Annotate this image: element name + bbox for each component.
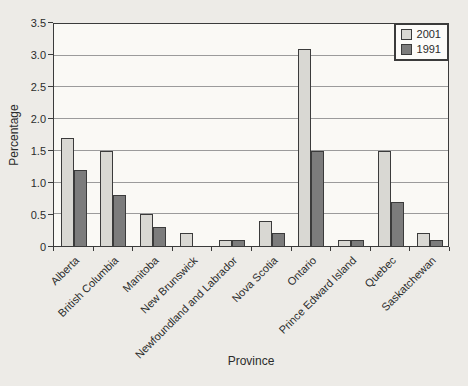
x-tick-label-prince-edward-island: Prince Edward Island [276,254,358,336]
legend-label: 2001 [417,28,441,41]
x-axis-tick [449,247,450,251]
bar-1991-nova-scotia [272,233,285,246]
bar-1991-newfoundland-and-labrador [232,240,245,246]
y-axis-tick [48,118,53,119]
bar-2001-manitoba [140,214,153,246]
y-axis-tick [48,22,53,23]
bar-2001-saskatchewan [417,233,430,246]
y-tick-label: 2.0 [24,113,46,125]
legend-swatch-2001 [401,29,412,40]
x-axis-labels: AlbertaBritish ColumbiaManitobaNew Bruns… [53,250,449,365]
legend-item-1991: 1991 [401,43,441,56]
bar-2001-new-brunswick [180,233,193,246]
bar-2001-british-columbia [100,151,113,246]
y-axis-tick [48,150,53,151]
legend-item-2001: 2001 [401,28,441,41]
y-axis-tick [48,214,53,215]
bar-2001-quebec [378,151,391,246]
bar-1991-british-columbia [113,195,126,246]
bar-2001-alberta [61,138,74,246]
x-tick-label-ontario: Ontario [285,254,319,288]
y-tick-label: 2.5 [24,81,46,93]
x-tick-label-alberta: Alberta [48,254,81,287]
y-tick-label: 1.5 [24,145,46,157]
y-axis-tick [48,182,53,183]
x-axis-title: Province [53,354,449,368]
bar-2001-nova-scotia [259,221,272,246]
bar-1991-ontario [311,151,324,246]
legend: 20011991 [394,23,449,61]
bar-2001-prince-edward-island [338,240,351,246]
bar-2001-ontario [298,49,311,246]
y-tick-label: 3.0 [24,49,46,61]
legend-swatch-1991 [401,44,412,55]
y-axis-tick [48,86,53,87]
gridline [54,86,448,87]
gridline [54,55,448,56]
x-tick-label-quebec: Quebec [362,254,398,290]
bar-2001-newfoundland-and-labrador [219,240,232,246]
legend-label: 1991 [417,43,441,56]
bar-1991-manitoba [153,227,166,246]
gridline [54,118,448,119]
y-tick-label: 0 [24,241,46,253]
bar-chart-figure: Percentage 20011991 00.51.01.52.02.53.03… [0,0,468,386]
x-tick-label-manitoba: Manitoba [120,254,160,294]
y-tick-label: 1.0 [24,177,46,189]
y-tick-label: 0.5 [24,209,46,221]
bar-1991-quebec [391,202,404,246]
y-axis-tick [48,54,53,55]
bar-1991-prince-edward-island [351,240,364,246]
y-tick-label: 3.5 [24,17,46,29]
bar-1991-saskatchewan [430,240,443,246]
bar-1991-alberta [74,170,87,246]
y-axis-title: Percentage [7,104,21,165]
plot-area: 20011991 [53,23,449,247]
